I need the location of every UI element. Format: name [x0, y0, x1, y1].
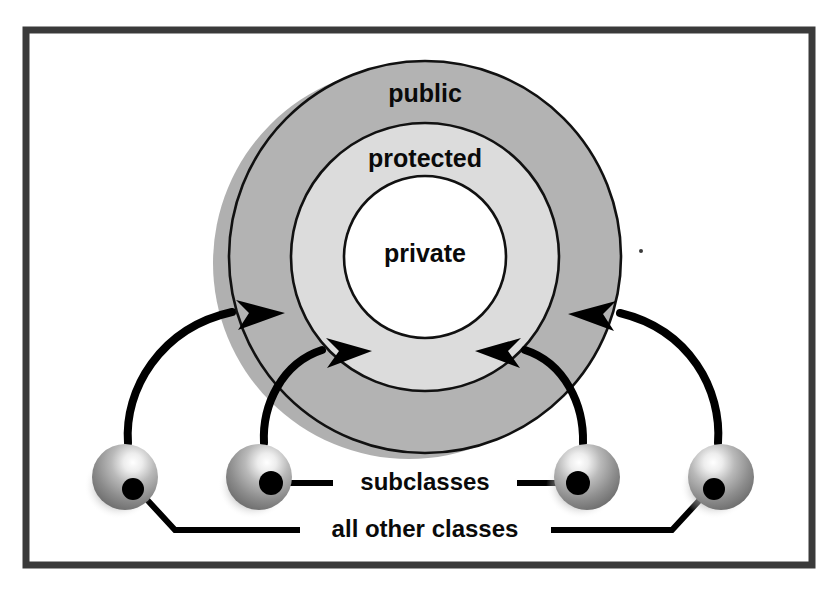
access-specifier-diagram: public protected private — [0, 0, 836, 590]
ring-label-protected: protected — [368, 144, 482, 172]
ring-label-public: public — [388, 79, 462, 107]
diagram-canvas: public protected private — [0, 0, 836, 590]
callout-all-other-classes: all other classes — [320, 511, 531, 546]
sphere-anchor-dot — [122, 478, 144, 500]
callout-subclasses: subclasses — [348, 464, 501, 499]
ring-label-private: private — [384, 239, 466, 267]
speck-artifact — [639, 249, 643, 253]
callout-label-all-other-classes: all other classes — [332, 515, 519, 542]
callout-label-subclasses: subclasses — [360, 468, 489, 495]
sphere-anchor-dot — [566, 471, 590, 495]
sphere-anchor-dot — [703, 478, 725, 500]
sphere-anchor-dot — [259, 471, 283, 495]
sphere-body — [92, 444, 158, 510]
sphere-body — [688, 444, 754, 510]
sphere-body — [226, 444, 292, 510]
